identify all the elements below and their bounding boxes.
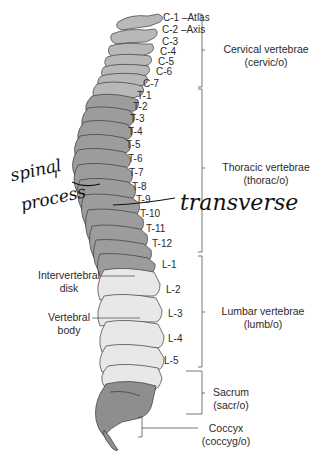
region-sacrum-root: (sacr/o) — [206, 399, 256, 412]
label-t3: T-3 — [130, 113, 144, 124]
callout-vertebral-line2: body — [44, 324, 94, 337]
callout-intervertebral-line1: Intervertebral — [36, 269, 102, 282]
region-lumbar-root: (lumb/o) — [206, 318, 320, 331]
coccyx — [103, 430, 118, 451]
label-t4: T-4 — [128, 126, 142, 137]
label-l5: L-5 — [164, 355, 178, 366]
region-coccyx: Coccyx (coccyg/o) — [196, 422, 256, 448]
region-sacrum-name: Sacrum — [206, 386, 256, 399]
label-t7: T-7 — [129, 167, 143, 178]
lumbar-vertebrae — [98, 268, 164, 390]
region-cervical-root: (cervic/o) — [206, 56, 326, 69]
label-t9: T-9 — [136, 194, 150, 205]
region-thoracic-root: (thorac/o) — [206, 174, 326, 187]
callout-intervertebral-disk: Intervertebral disk — [36, 269, 102, 295]
label-l2: L-2 — [166, 284, 180, 295]
callout-vertebral-body: Vertebral body — [44, 311, 94, 337]
label-c1: C-1 –Atlas — [163, 12, 210, 23]
label-l1: L-1 — [162, 259, 176, 270]
label-c7: C-7 — [143, 78, 159, 89]
label-t6: T-6 — [128, 153, 142, 164]
region-lumbar: Lumbar vertebrae (lumb/o) — [206, 305, 320, 331]
region-sacrum: Sacrum (sacr/o) — [206, 386, 256, 412]
region-coccyx-root: (coccyg/o) — [196, 435, 256, 448]
region-cervical: Cervical vertebrae (cervic/o) — [206, 43, 326, 69]
callout-intervertebral-line2: disk — [36, 282, 102, 295]
region-coccyx-name: Coccyx — [196, 422, 256, 435]
label-t12: T-12 — [152, 238, 172, 249]
region-thoracic: Thoracic vertebrae (thorac/o) — [206, 161, 326, 187]
label-c6: C-6 — [156, 66, 172, 77]
region-lumbar-name: Lumbar vertebrae — [206, 305, 320, 318]
label-c2: C-2 –Axis — [162, 24, 205, 35]
label-t5: T-5 — [126, 139, 140, 150]
label-t2: T-2 — [133, 101, 147, 112]
callout-vertebral-line1: Vertebral — [44, 311, 94, 324]
region-thoracic-name: Thoracic vertebrae — [206, 161, 326, 174]
label-t11: T-11 — [146, 223, 165, 234]
label-l3: L-3 — [168, 308, 182, 319]
label-l4: L-4 — [168, 333, 182, 344]
region-cervical-name: Cervical vertebrae — [206, 43, 326, 56]
handwritten-transverse: transverse — [180, 190, 298, 215]
label-t1: T-1 — [137, 90, 151, 101]
label-t8: T-8 — [132, 181, 146, 192]
label-t10: T-10 — [140, 208, 160, 219]
